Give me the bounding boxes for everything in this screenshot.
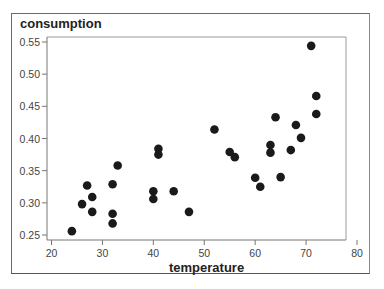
data-point: [154, 150, 163, 159]
x-tick-label: 60: [249, 247, 261, 259]
y-tick-label: 0.45: [20, 100, 41, 112]
data-point: [88, 193, 97, 202]
scatter-plot: 203040506070800.250.300.350.400.450.500.…: [0, 0, 384, 289]
data-point: [78, 200, 87, 209]
plot-axes: 203040506070800.250.300.350.400.450.500.…: [20, 36, 363, 259]
data-point: [185, 208, 194, 217]
x-tick-label: 20: [46, 247, 58, 259]
data-point: [108, 209, 117, 218]
data-point: [231, 153, 240, 162]
data-point: [307, 42, 316, 51]
data-points: [68, 42, 321, 236]
y-tick-label: 0.55: [20, 36, 41, 48]
data-point: [108, 180, 117, 189]
data-point: [312, 110, 321, 119]
x-tick-label: 80: [351, 247, 363, 259]
data-point: [149, 187, 158, 196]
data-point: [266, 141, 275, 150]
x-tick-label: 40: [147, 247, 159, 259]
data-point: [276, 173, 285, 182]
data-point: [251, 173, 260, 182]
x-tick-label: 30: [97, 247, 109, 259]
y-tick-label: 0.30: [20, 197, 41, 209]
data-point: [113, 161, 122, 170]
data-point: [287, 146, 296, 155]
data-point: [256, 182, 265, 191]
y-tick-label: 0.40: [20, 133, 41, 145]
data-point: [88, 208, 97, 217]
data-point: [312, 92, 321, 101]
data-point: [83, 181, 92, 190]
data-point: [169, 187, 178, 196]
data-point: [68, 227, 77, 236]
data-point: [210, 125, 219, 134]
data-point: [266, 148, 275, 157]
data-point: [271, 113, 280, 122]
data-point: [297, 134, 306, 143]
x-tick-label: 50: [198, 247, 210, 259]
data-point: [292, 121, 301, 130]
data-point: [108, 219, 117, 228]
y-tick-label: 0.25: [20, 229, 41, 241]
x-tick-label: 70: [300, 247, 312, 259]
data-point: [149, 195, 158, 204]
y-tick-label: 0.50: [20, 68, 41, 80]
y-tick-label: 0.35: [20, 165, 41, 177]
